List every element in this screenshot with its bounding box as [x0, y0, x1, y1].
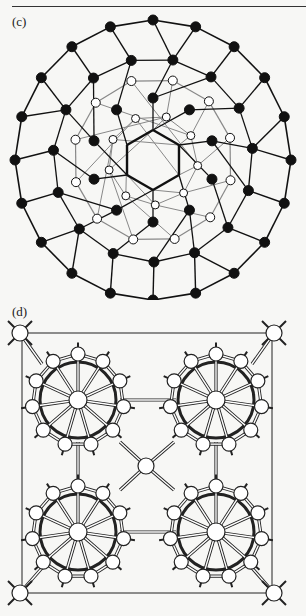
panel-d-unit-cell-diagram [0, 0, 306, 616]
